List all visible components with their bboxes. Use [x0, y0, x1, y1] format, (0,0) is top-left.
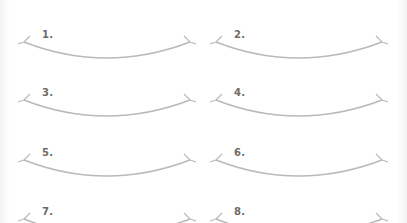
smile-arc-icon	[20, 90, 200, 130]
smile-arc-icon	[212, 150, 392, 190]
worksheet-page: 1. 2. 3. 4. 5.	[0, 0, 407, 223]
worksheet-item-7: 7.	[20, 209, 200, 223]
smile-arc-icon	[20, 150, 200, 190]
worksheet-item-2: 2.	[212, 32, 392, 72]
worksheet-item-3: 3.	[20, 90, 200, 130]
worksheet-item-6: 6.	[212, 150, 392, 190]
worksheet-item-5: 5.	[20, 150, 200, 190]
worksheet-item-1: 1.	[20, 32, 200, 72]
smile-arc-icon	[212, 209, 392, 223]
smile-arc-icon	[212, 32, 392, 72]
worksheet-item-4: 4.	[212, 90, 392, 130]
worksheet-item-8: 8.	[212, 209, 392, 223]
smile-arc-icon	[212, 90, 392, 130]
smile-arc-icon	[20, 209, 200, 223]
smile-arc-icon	[20, 32, 200, 72]
left-edge-shade	[0, 0, 10, 223]
right-edge-shade	[397, 0, 407, 223]
